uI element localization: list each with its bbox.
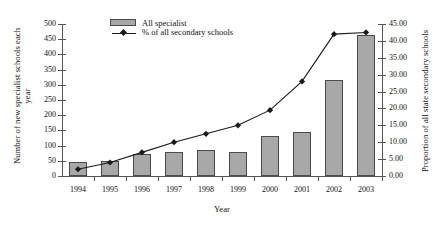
line-marker [75,166,81,172]
axis-spine [382,24,383,177]
y2-axis-tickmark [378,125,386,126]
x-axis-tickmark [286,176,287,181]
line-marker [171,139,177,145]
y-axis-tickmark [58,176,66,177]
y-axis-tickmark [58,39,66,40]
x-axis-tickmark [126,176,127,181]
x-axis-tickmark [158,176,159,181]
y2-axis-tickmark [378,24,386,25]
y2-axis-tickmark [378,92,386,93]
x-axis-tickmark [318,176,319,181]
line-marker [235,122,241,128]
y-axis-tickmark [58,130,66,131]
line-marker [203,131,209,137]
y-axis-tickmark [58,85,66,86]
x-axis-tickmark [222,176,223,181]
x-axis-tickmark [190,176,191,181]
x-axis-tickmark [350,176,351,181]
y2-axis-tickmark [378,41,386,42]
y-axis-tickmark [58,100,66,101]
x-axis-tickmark [254,176,255,181]
line-marker [139,149,145,155]
line-path [78,32,366,169]
legend-line-label: % of all secondary schools [142,27,233,37]
chart-figure: Number of new specialist schools each ye… [0,0,444,227]
legend-bar-swatch [110,19,136,26]
y2-axis-tickmark [378,142,386,143]
y2-axis-tickmark [378,108,386,109]
y-axis-tickmark [58,24,66,25]
line-marker [363,29,369,35]
y-axis-tickmark [58,161,66,162]
y2-axis-tickmark [378,75,386,76]
y-axis-tickmark [58,115,66,116]
line-marker [331,31,337,37]
x-axis-tickmark [382,176,383,181]
y-axis-tickmark [58,54,66,55]
y-axis-tickmark [58,70,66,71]
y2-axis-tickmark [378,58,386,59]
y-axis-tickmark [58,146,66,147]
y2-axis-tickmark [378,159,386,160]
line-marker [107,159,113,165]
x-axis-tickmark [94,176,95,181]
